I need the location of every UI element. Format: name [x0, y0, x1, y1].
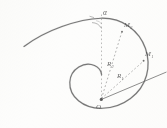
radius-R1-label-base: R	[117, 72, 121, 80]
origin-pole-dot	[100, 98, 103, 101]
point-M2-label-base: M	[124, 21, 130, 29]
radius-R2-label: R2	[107, 61, 113, 68]
spiral-curve-group	[24, 18, 148, 108]
angle-alpha-label: α	[103, 9, 107, 17]
point-M2-label-subscript: 2	[130, 25, 132, 30]
point-M1-label: M1	[145, 51, 153, 58]
point-M1-label-base: M	[145, 50, 151, 58]
radius-R2-label-subscript: 2	[112, 64, 114, 69]
spiral-figure-container: α M2 M1 R2 R1 O	[0, 0, 167, 128]
origin-label: O	[96, 104, 101, 111]
radius-R1-label: R1	[117, 73, 123, 80]
spiral-curve-ghost	[24, 18, 148, 108]
radius-R2-label-base: R	[107, 60, 111, 68]
point-M2-label: M2	[124, 22, 132, 29]
spiral-diagram-svg	[0, 0, 167, 128]
point-M1-label-subscript: 1	[151, 54, 153, 59]
radius-R1-label-subscript: 1	[122, 76, 124, 81]
angle-alpha-arc	[92, 23, 102, 29]
angle-vertex-tick	[90, 16, 95, 17]
point-M2-marker	[121, 31, 123, 33]
point-M1-marker	[143, 60, 145, 62]
